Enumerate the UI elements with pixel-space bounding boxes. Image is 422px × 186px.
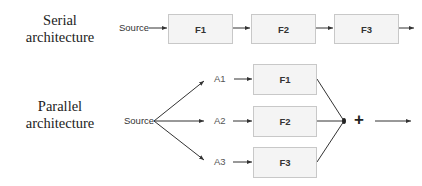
serial-block-f1: F1 xyxy=(168,14,233,44)
parallel-title-line2: architecture xyxy=(5,115,115,132)
serial-title-line2: architecture xyxy=(5,29,115,46)
serial-title: Serial architecture xyxy=(5,12,115,46)
parallel-source-label: Source xyxy=(124,115,154,126)
serial-source-label: Source xyxy=(119,22,149,33)
parallel-title-line1: Parallel xyxy=(5,98,115,115)
parallel-title: Parallel architecture xyxy=(5,98,115,132)
input-a1: A1 xyxy=(214,73,226,84)
serial-block-f3: F3 xyxy=(334,14,399,44)
parallel-block-f3: F3 xyxy=(253,147,317,178)
serial-block-f2: F2 xyxy=(251,14,316,44)
junction-dot xyxy=(342,118,346,124)
parallel-block-f2: F2 xyxy=(253,106,317,137)
input-a2: A2 xyxy=(214,115,226,126)
sum-symbol: + xyxy=(354,110,364,130)
parallel-block-f1: F1 xyxy=(253,64,317,95)
serial-title-line1: Serial xyxy=(5,12,115,29)
input-a3: A3 xyxy=(214,156,226,167)
